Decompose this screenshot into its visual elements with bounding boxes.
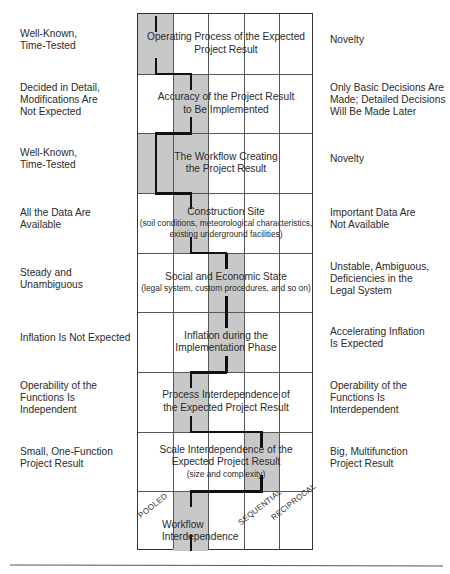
row-title: Inflation during theImplementation Phase (138, 330, 314, 355)
path-segment (190, 252, 228, 255)
path-segment (155, 192, 193, 195)
path-segment (190, 372, 193, 388)
row-title: The Workflow Creatingthe Project Result (138, 151, 314, 176)
left-criterion-label: Small, One-FunctionProject Result (20, 446, 135, 470)
path-segment (190, 431, 263, 434)
path-segment (155, 132, 193, 135)
path-segment (225, 312, 228, 328)
right-criterion-label: Accelerating InflationIs Expected (330, 326, 448, 350)
right-criterion-label: Novelty (330, 34, 448, 46)
left-criterion-label: Inflation Is Not Expected (20, 332, 135, 344)
right-criterion-label: Important Data AreNot Available (330, 207, 448, 231)
right-criterion-label: Novelty (330, 153, 448, 165)
left-criterion-label: Well-Known,Time-Tested (20, 28, 135, 52)
right-criterion-label: Big, MultifunctionProject Result (330, 446, 448, 470)
left-criterion-label: All the Data AreAvailable (20, 207, 135, 231)
left-criterion-label: Operability of theFunctions IsIndependen… (20, 380, 135, 416)
row-title: Scale Interdependence of theExpected Pro… (138, 444, 314, 480)
row-title: Accuracy of the Project Resultto Be Impl… (138, 91, 314, 116)
path-segment (190, 74, 193, 90)
row-title: Process Interdependence ofthe Expected P… (138, 389, 314, 414)
label-pooled: POOLED (136, 492, 169, 520)
path-segment (155, 73, 193, 76)
path-segment (190, 490, 263, 493)
right-criterion-label: Unstable, Ambiguous,Deficiencies in theL… (330, 261, 448, 297)
path-segment (155, 16, 158, 32)
row-title: Operating Process of the ExpectedProject… (138, 31, 314, 56)
path-segment (225, 253, 228, 269)
profile-grid: Operating Process of the ExpectedProject… (137, 13, 313, 550)
left-criterion-label: Steady andUnambiguous (20, 267, 135, 291)
left-criterion-label: Decided in Detail,Modifications AreNot E… (20, 82, 135, 118)
path-segment (190, 371, 228, 374)
path-segment (190, 491, 193, 507)
right-criterion-label: Only Basic Decisions AreMade; Detailed D… (330, 82, 448, 118)
left-criterion-label: Well-Known,Time-Tested (20, 147, 135, 171)
bottom-rule (10, 564, 443, 566)
row-title: WorkflowInterdependence (148, 519, 268, 544)
path-segment (225, 296, 228, 313)
row-title: Construction Site(soil conditions, meteo… (138, 206, 314, 241)
right-criterion-label: Operability of theFunctions IsInterdepen… (330, 380, 448, 416)
row-title: Social and Economic State(legal system, … (138, 271, 314, 295)
